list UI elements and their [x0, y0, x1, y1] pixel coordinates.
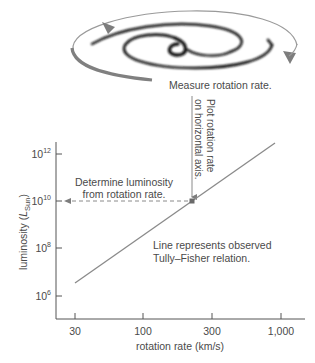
svg-text:from rotation rate.: from rotation rate.: [83, 188, 166, 200]
determine-annotation: Determine luminosity from rotation rate.: [75, 176, 174, 200]
rotation-arc-bottom: [72, 48, 152, 80]
ytick-1e8: 108: [35, 241, 51, 254]
rotation-arrow-left: [102, 22, 115, 34]
rotation-arrow-right: [283, 51, 296, 64]
y-tick-labels: 1012 1010 108 106: [32, 147, 52, 302]
xtick-1000: 1,000: [268, 325, 294, 337]
ytick-1e6: 106: [35, 289, 51, 302]
svg-text:on horizontal axis.: on horizontal axis.: [193, 99, 204, 180]
highlight-point: [190, 199, 195, 204]
tully-fisher-diagram: Measure rotation rate. Plot rotation rat…: [0, 0, 315, 363]
x-tick-labels: 30 100 300 1,000: [69, 325, 294, 337]
xtick-30: 30: [69, 325, 81, 337]
ytick-1e10: 1010: [32, 194, 52, 207]
relation-annotation: Line represents observed Tully–Fisher re…: [153, 239, 272, 264]
xtick-100: 100: [134, 325, 152, 337]
xtick-300: 300: [203, 325, 221, 337]
ytick-1e12: 1012: [32, 147, 52, 160]
x-axis-label: rotation rate (km/s): [136, 340, 224, 352]
measure-annotation: Measure rotation rate.: [169, 79, 272, 91]
spiral-galaxy-icon: [72, 11, 297, 80]
y-axis-label: luminosity (LSun): [17, 194, 32, 270]
determine-arrowhead: [64, 198, 71, 204]
svg-text:Determine luminosity: Determine luminosity: [75, 176, 174, 188]
svg-text:Tully–Fisher relation.: Tully–Fisher relation.: [153, 252, 250, 264]
plot-annotation: Plot rotation rate on horizontal axis.: [193, 99, 216, 180]
svg-text:Plot rotation rate: Plot rotation rate: [205, 99, 216, 173]
axes: [56, 142, 305, 319]
svg-text:Line represents observed: Line represents observed: [153, 239, 272, 251]
